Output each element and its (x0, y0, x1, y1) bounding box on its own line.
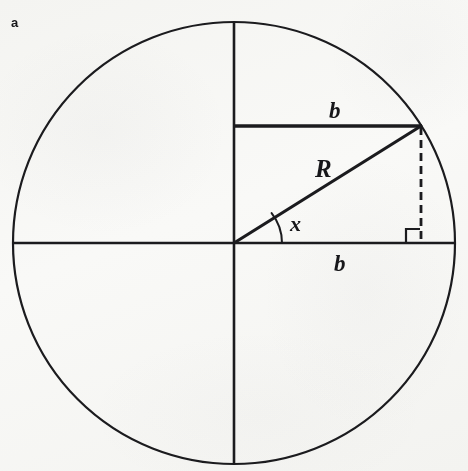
label-b-top: b (329, 99, 341, 122)
geometry-diagram (0, 0, 468, 471)
figure-container: a b R x b (0, 0, 468, 471)
label-b-bottom: b (334, 252, 346, 275)
label-radius-R: R (315, 156, 332, 181)
radius-line-R (234, 126, 421, 243)
right-angle-marker (406, 229, 420, 242)
label-angle-x: x (290, 213, 301, 235)
panel-label-a: a (11, 16, 18, 29)
